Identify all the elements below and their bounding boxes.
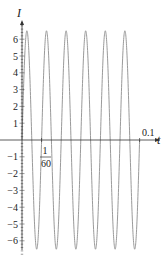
x-tick-label-fraction-num: 1 — [43, 145, 48, 156]
x-tick-label-end: 0.1 — [142, 127, 155, 138]
y-tick-label: 1 — [13, 118, 18, 129]
x-axis-label: t — [157, 133, 161, 147]
y-tick-label: 4 — [13, 67, 18, 78]
y-tick-label: −6 — [7, 235, 18, 246]
chart-plot: −6−5−4−3−2−1123456 I t 1 60 0.1 — [0, 0, 168, 256]
y-tick-label: 2 — [13, 101, 18, 112]
x-tick-label-fraction-den: 60 — [41, 158, 51, 169]
y-axis-arrow-icon — [20, 20, 24, 25]
y-tick-label: −5 — [7, 219, 18, 230]
y-tick-label: −1 — [7, 151, 18, 162]
y-axis-label: I — [16, 6, 22, 20]
axes — [0, 20, 160, 250]
y-tick-label: −4 — [7, 202, 18, 213]
y-tick-label: 5 — [13, 51, 18, 62]
y-tick-label: −2 — [7, 168, 18, 179]
y-tick-label: −3 — [7, 185, 18, 196]
y-tick-label: 6 — [13, 34, 18, 45]
y-tick-label: 3 — [13, 84, 18, 95]
